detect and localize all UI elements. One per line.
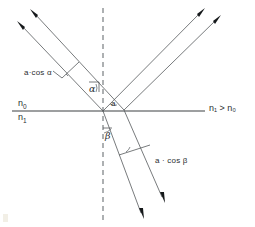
angle-of-refraction-label: β	[105, 131, 111, 141]
alpha-angle-arc	[96, 84, 97, 92]
refracted-width-segment	[119, 145, 150, 155]
reflected-ray-1	[103, 13, 200, 111]
arrowhead-reflected-2	[213, 15, 221, 24]
refracted-beam-width-label: a · cos β	[155, 157, 188, 165]
index-relation-label: n₁ > n₀	[209, 104, 236, 113]
diagram-canvas	[0, 0, 255, 227]
aperture-label: a	[111, 100, 115, 108]
refractive-index-lower-label: n1	[18, 113, 27, 124]
index-upper-subscript: 0	[23, 103, 27, 110]
refractive-index-upper-label: n0	[18, 99, 27, 110]
arrowhead-refracted-1	[139, 208, 144, 219]
refracted-ray-2	[124, 110, 162, 197]
incident-beam-width-label: a·cos α	[24, 69, 52, 77]
arrowhead-incident-1	[17, 21, 25, 30]
incident-width-segment	[62, 62, 79, 78]
arrowhead-refracted-2	[160, 192, 165, 203]
incident-width-leader	[53, 71, 62, 78]
refracted-ray-1	[103, 111, 141, 213]
incident-ray-2	[35, 14, 124, 110]
reflected-ray-2	[124, 20, 216, 110]
index-lower-subscript: 1	[23, 117, 27, 124]
arrowhead-incident-2	[30, 9, 38, 18]
angle-of-incidence-label: α	[89, 84, 95, 94]
arrowhead-reflected-1	[197, 8, 205, 17]
optics-ray-diagram: a·cos α a · cos β α β a n0 n1 n₁ > n₀	[0, 0, 255, 227]
corner-artifact	[3, 214, 8, 222]
